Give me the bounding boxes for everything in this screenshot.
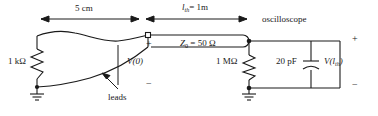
- resistor-1megohm-label: 1 MΩ: [216, 57, 237, 66]
- line-length-value: = 1m: [189, 2, 208, 12]
- leads-label: leads: [108, 93, 127, 102]
- capacitor-20pf: [303, 61, 319, 69]
- line-impedance-subscript: 0: [185, 43, 188, 49]
- input-polarity-plus: +: [146, 39, 152, 49]
- ground-symbol-left: [30, 87, 44, 100]
- dimension-arrow-5cm: [41, 16, 139, 22]
- output-voltage-label: V(lth): [324, 57, 343, 67]
- line-impedance-label: Z0 = 50 Ω: [180, 39, 216, 49]
- output-polarity-minus: −: [352, 80, 358, 90]
- circuit-schematic-canvas: [0, 0, 378, 116]
- ground-symbol-right: [242, 88, 256, 100]
- input-polarity-minus: −: [146, 79, 152, 89]
- line-connector-square: [146, 33, 151, 38]
- output-voltage-close: ): [340, 56, 343, 66]
- oscilloscope-label: oscilloscope: [262, 15, 307, 24]
- dimension-label-line-length: lth= 1m: [182, 3, 208, 13]
- output-polarity-plus: +: [352, 34, 358, 44]
- input-voltage-label: V(0): [127, 57, 143, 66]
- junction-dot-scope-input: [247, 39, 252, 44]
- dimension-arrow-line-length: [146, 16, 247, 22]
- resistor-1megohm: [243, 55, 255, 80]
- resistor-1kohm: [31, 49, 43, 79]
- resistor-1kohm-label: 1 kΩ: [8, 57, 26, 66]
- dimension-label-5cm: 5 cm: [75, 4, 93, 13]
- circuit-diagram: 5 cm lth= 1m oscilloscope 1 kΩ Z0 = 50 Ω…: [0, 0, 378, 116]
- leads-callout-arrow: [102, 73, 118, 89]
- capacitor-20pf-label: 20 pF: [276, 57, 297, 66]
- line-impedance-value: = 50 Ω: [190, 38, 215, 48]
- output-voltage-symbol: V(l: [324, 56, 335, 66]
